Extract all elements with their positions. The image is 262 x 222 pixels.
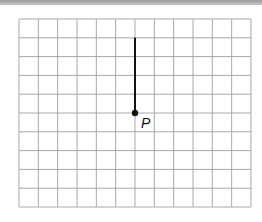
point-p-marker xyxy=(132,110,138,116)
point-p-label: P xyxy=(141,115,151,131)
grid-diagram: P xyxy=(0,0,262,222)
